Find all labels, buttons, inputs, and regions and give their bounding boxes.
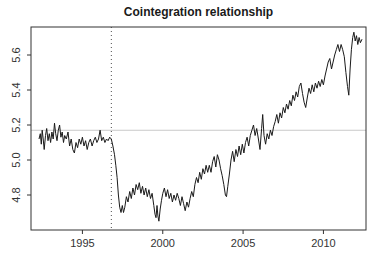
plot-canvas: Cointegration relationship 1995200020052…: [0, 0, 373, 263]
axis-ticks-layer: 19952000200520104.85.05.25.45.6: [10, 47, 336, 249]
y-tick-label: 5.0: [10, 152, 22, 167]
series-layer: [39, 32, 362, 221]
y-tick-label: 5.4: [10, 82, 22, 97]
chart-title: Cointegration relationship: [124, 5, 273, 19]
y-tick-label: 4.8: [10, 187, 22, 202]
series-line: [39, 32, 362, 221]
x-tick-label: 2010: [311, 237, 335, 249]
cointegration-figure: Cointegration relationship 1995200020052…: [0, 0, 373, 263]
reference-lines-layer: [31, 27, 366, 230]
y-tick-label: 5.6: [10, 47, 22, 62]
x-tick-label: 1995: [70, 237, 94, 249]
x-tick-label: 2000: [151, 237, 175, 249]
plot-frame: [31, 27, 366, 230]
y-tick-label: 5.2: [10, 117, 22, 132]
x-tick-label: 2005: [231, 237, 255, 249]
